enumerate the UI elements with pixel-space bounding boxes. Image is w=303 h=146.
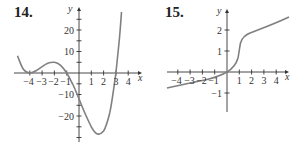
- x-tick-labels: −4 −3 −2 −1 1 2 3 4: [23, 76, 131, 87]
- svg-text:20: 20: [64, 25, 74, 36]
- svg-text:−4: −4: [171, 75, 182, 86]
- y-axis-label: y: [67, 3, 73, 14]
- svg-text:4: 4: [126, 76, 131, 87]
- svg-text:−3: −3: [184, 75, 195, 86]
- graph-15-panel: y x −4 −3 −2 −1 1 2 3 4 2 1 −1 15.: [150, 0, 303, 146]
- x-axis-label: x: [284, 71, 290, 82]
- x-tick-labels: −4 −3 −2 −1 1 2 3 4: [171, 75, 279, 86]
- y-tick-labels: 2 1 −1: [211, 25, 222, 99]
- svg-text:−20: −20: [58, 111, 74, 122]
- svg-text:1: 1: [89, 76, 94, 87]
- svg-text:−1: −1: [60, 76, 71, 87]
- y-axis-label: y: [216, 5, 222, 16]
- svg-text:3: 3: [261, 75, 266, 86]
- graph-14-number: 14.: [14, 4, 33, 21]
- svg-text:2: 2: [217, 25, 222, 36]
- graph-15-number: 15.: [165, 4, 184, 21]
- svg-text:2: 2: [249, 75, 254, 86]
- y-axis-arrow-icon: [77, 7, 81, 11]
- x-axis-label: x: [137, 72, 143, 83]
- svg-text:−1: −1: [208, 75, 219, 86]
- svg-text:−4: −4: [23, 76, 34, 87]
- svg-text:1: 1: [237, 75, 242, 86]
- graph-15-plot: y x −4 −3 −2 −1 1 2 3 4 2 1 −1: [150, 0, 303, 146]
- y-axis-arrow-icon: [225, 9, 229, 13]
- svg-text:−10: −10: [58, 89, 74, 100]
- graph-14-plot: y x −4 −3 −2 −1 1 2 3 4 20 10 −10 −20: [0, 0, 150, 146]
- svg-text:−2: −2: [48, 76, 59, 87]
- svg-text:−3: −3: [36, 76, 47, 87]
- graph-14-panel: y x −4 −3 −2 −1 1 2 3 4 20 10 −10 −20 14…: [0, 0, 150, 146]
- svg-text:−1: −1: [211, 88, 222, 99]
- svg-text:1: 1: [217, 46, 222, 57]
- svg-text:−2: −2: [196, 75, 207, 86]
- svg-text:3: 3: [113, 76, 118, 87]
- svg-text:10: 10: [64, 46, 74, 57]
- svg-text:2: 2: [101, 76, 106, 87]
- svg-text:4: 4: [274, 75, 279, 86]
